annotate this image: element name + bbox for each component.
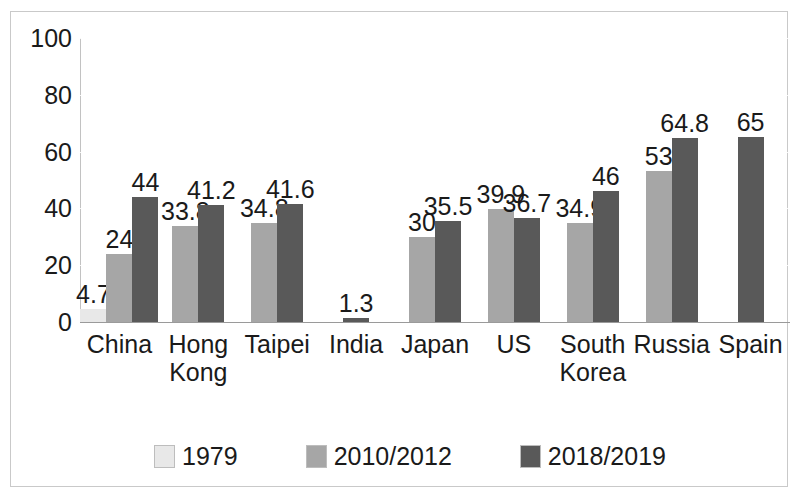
x-axis-category-label: Taipei — [238, 330, 317, 386]
bar[interactable]: 41.6 — [277, 204, 303, 322]
bar[interactable]: 64.8 — [672, 138, 698, 322]
bar-value-label: 44 — [132, 170, 160, 197]
legend-label: 1979 — [182, 444, 238, 469]
bar-value-label: 35.5 — [424, 194, 473, 221]
bar-group: 65 — [711, 38, 790, 322]
x-axis-category-label: South Korea — [553, 330, 632, 386]
x-axis-category-label: China — [80, 330, 159, 386]
bar-slot: 35.5 — [435, 38, 461, 322]
bar[interactable]: 4.7 — [80, 309, 106, 322]
x-axis-category-label: US — [474, 330, 553, 386]
bar[interactable]: 53 — [646, 171, 672, 322]
bar-value-label: 24 — [106, 227, 134, 254]
x-axis-category-label: Japan — [396, 330, 475, 386]
bar-slot: 41.6 — [277, 38, 303, 322]
y-axis-tick-label: 40 — [6, 196, 72, 221]
chart-legend: 19792010/20122018/2019 — [80, 444, 740, 469]
bar-slot: 1.3 — [343, 38, 369, 322]
bar-group: 5364.8 — [632, 38, 711, 322]
legend-label: 2018/2019 — [548, 444, 666, 469]
x-axis-category-label: India — [317, 330, 396, 386]
bar[interactable]: 35.5 — [435, 221, 461, 322]
y-axis-tick-label: 100 — [6, 26, 72, 51]
legend-item[interactable]: 1979 — [154, 444, 238, 469]
legend-swatch-icon — [520, 445, 541, 468]
bar[interactable]: 46 — [593, 191, 619, 322]
bar-value-label: 65 — [737, 110, 765, 137]
bar-group: 3035.5 — [396, 38, 475, 322]
bar-value-label: 46 — [592, 164, 620, 191]
bar[interactable]: 24 — [106, 254, 132, 322]
x-axis-line — [80, 322, 790, 323]
y-axis-tick-label: 80 — [6, 82, 72, 107]
x-axis-category-label: Spain — [711, 330, 790, 386]
legend-swatch-icon — [154, 445, 175, 468]
bar-chart: 020406080100 4.7244433.841.234.841.61.33… — [0, 0, 796, 496]
bar-slot: 4.7 — [80, 38, 106, 322]
bar-value-label: 41.6 — [266, 177, 315, 204]
bar-slot: 65 — [738, 38, 764, 322]
bar-slot: 34.9 — [567, 38, 593, 322]
bar[interactable]: 44 — [132, 197, 158, 322]
bar-group: 4.72444 — [80, 38, 159, 322]
bar-group: 33.841.2 — [159, 38, 238, 322]
x-axis-category-label: Russia — [632, 330, 711, 386]
legend-label: 2010/2012 — [334, 444, 452, 469]
bar[interactable]: 41.2 — [198, 205, 224, 322]
bar-value-label: 1.3 — [339, 291, 374, 318]
bar-value-label: 53 — [645, 144, 673, 171]
bar-slot: 53 — [646, 38, 672, 322]
bar-value-label: 36.7 — [503, 191, 552, 218]
bar-group: 39.936.7 — [474, 38, 553, 322]
x-axis-category-labels: ChinaHong KongTaipeiIndiaJapanUSSouth Ko… — [80, 330, 790, 386]
bar-slot: 39.9 — [488, 38, 514, 322]
bar-group: 34.946 — [553, 38, 632, 322]
bar[interactable]: 33.8 — [172, 226, 198, 322]
bar-group: 1.3 — [317, 38, 396, 322]
y-axis-tick-label: 20 — [6, 253, 72, 278]
bar[interactable]: 65 — [738, 137, 764, 322]
bar-group: 34.841.6 — [238, 38, 317, 322]
bar-slot: 36.7 — [514, 38, 540, 322]
y-axis-tick-label: 0 — [6, 310, 72, 335]
bar-value-label: 41.2 — [187, 178, 236, 205]
bar[interactable]: 34.9 — [567, 223, 593, 322]
bar-slot: 44 — [132, 38, 158, 322]
bar-slot: 30 — [409, 38, 435, 322]
bar-groups: 4.7244433.841.234.841.61.33035.539.936.7… — [80, 38, 790, 322]
bar-slot: 46 — [593, 38, 619, 322]
legend-item[interactable]: 2018/2019 — [520, 444, 666, 469]
legend-swatch-icon — [306, 445, 327, 468]
y-axis-tick-labels: 020406080100 — [0, 0, 72, 496]
y-axis-tick-label: 60 — [6, 139, 72, 164]
bar[interactable]: 34.8 — [251, 223, 277, 322]
legend-item[interactable]: 2010/2012 — [306, 444, 452, 469]
bar-slot: 64.8 — [672, 38, 698, 322]
bar[interactable]: 30 — [409, 237, 435, 322]
bar-slot: 24 — [106, 38, 132, 322]
x-axis-category-label: Hong Kong — [159, 330, 238, 386]
bar[interactable]: 39.9 — [488, 209, 514, 322]
bar-slot: 41.2 — [198, 38, 224, 322]
bar[interactable]: 36.7 — [514, 218, 540, 322]
bar-value-label: 64.8 — [660, 111, 709, 138]
